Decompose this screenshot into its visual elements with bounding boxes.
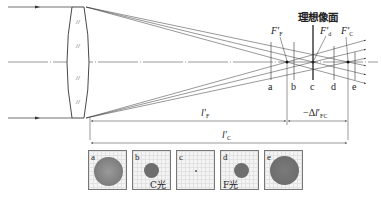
blur-spot-d	[234, 163, 249, 178]
plane-label-e: e	[352, 82, 356, 92]
spot-letter-a: a	[91, 152, 95, 162]
dimension-label-delta: −Δl′FC	[303, 108, 327, 119]
spot-panel-b: b C光	[132, 150, 171, 190]
spot-panel-d: d F光	[220, 150, 259, 190]
focal-label-C: F′C	[341, 26, 353, 37]
spot-panel-c: c	[176, 150, 215, 190]
plane-label-c: c	[310, 82, 314, 92]
plane-label-b: b	[291, 82, 296, 92]
plane-label-d: d	[331, 82, 336, 92]
spot-caption-d: F光	[223, 178, 238, 191]
spot-letter-e: e	[267, 152, 271, 162]
spot-panel-a: a	[88, 150, 127, 190]
spot-letter-c: c	[179, 152, 183, 162]
point-image-c	[195, 170, 197, 172]
ideal-image-plane-label: 理想像面	[298, 12, 338, 23]
spot-letter-d: d	[223, 152, 228, 162]
spot-caption-b: C光	[150, 178, 166, 191]
spot-panel-e: e	[264, 150, 303, 190]
blur-spot-a	[94, 157, 123, 186]
dimension-label-lC: l′C	[222, 130, 231, 141]
spot-letter-b: b	[135, 152, 140, 162]
dimension-label-lF: l′F	[201, 108, 209, 119]
blur-spot-e	[270, 156, 299, 185]
focal-label-d: F′d	[320, 26, 331, 37]
plane-label-a: a	[268, 82, 272, 92]
blur-spot-b	[144, 163, 159, 178]
focal-label-F: F′F	[271, 26, 283, 37]
